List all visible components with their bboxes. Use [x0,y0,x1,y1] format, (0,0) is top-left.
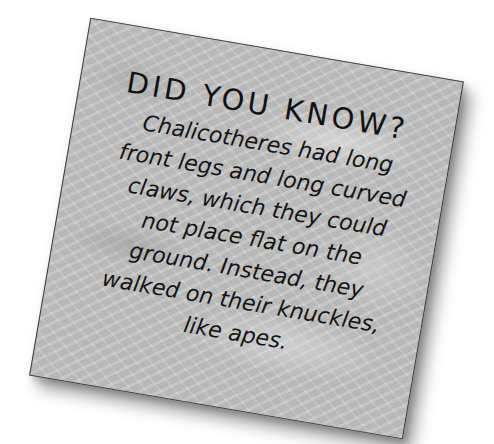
did-you-know-card: DID YOU KNOW? Chalicotheres had long fro… [29,18,464,440]
